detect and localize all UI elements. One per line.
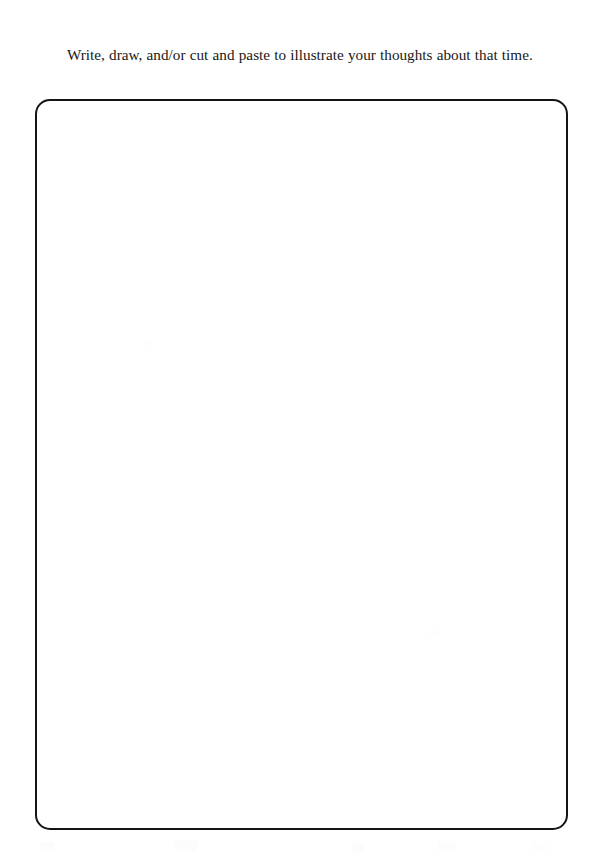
response-area-canvas[interactable]	[37, 101, 566, 828]
scan-speck	[40, 842, 54, 851]
workbook-page: Write, draw, and/or cut and paste to ill…	[0, 0, 598, 863]
scan-speck	[175, 840, 197, 851]
instruction-paragraph: Write, draw, and/or cut and paste to ill…	[17, 44, 582, 66]
instruction-block: Write, draw, and/or cut and paste to ill…	[17, 44, 582, 66]
scan-speck	[533, 843, 546, 852]
scan-speck	[438, 841, 456, 851]
response-area[interactable]	[35, 99, 568, 830]
scan-speck	[351, 843, 363, 853]
